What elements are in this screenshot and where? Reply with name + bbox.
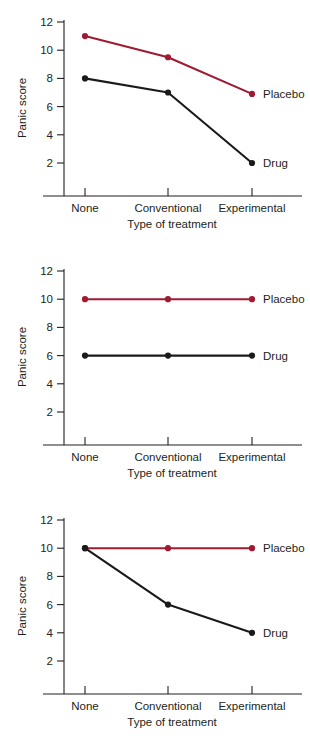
data-point-drug-0 xyxy=(82,545,88,551)
series-label-placebo: Placebo xyxy=(263,542,305,554)
series-line-placebo xyxy=(85,36,252,94)
series-group-3 xyxy=(82,545,255,636)
y-tick-label-8: 8 xyxy=(47,72,53,84)
x-axis-title-1: Type of treatment xyxy=(127,218,217,230)
y-axis-title-3: Panic score xyxy=(16,576,28,636)
chart-panel-stack: 24681012 NoneConventionalExperimental Pl… xyxy=(0,0,310,748)
y-tick-marks-2 xyxy=(57,271,64,412)
y-tick-label-2: 2 xyxy=(47,406,53,418)
y-tick-label-4: 4 xyxy=(47,627,54,639)
y-tick-label-12: 12 xyxy=(40,16,53,28)
x-tick-labels-3: NoneConventionalExperimental xyxy=(71,700,285,712)
series-label-placebo: Placebo xyxy=(263,293,305,305)
series-label-placebo: Placebo xyxy=(263,88,305,100)
y-tick-marks-1 xyxy=(57,22,64,163)
data-point-drug-1 xyxy=(165,89,171,95)
x-tick-labels-1: NoneConventionalExperimental xyxy=(71,202,285,214)
y-tick-label-4: 4 xyxy=(47,129,54,141)
chart-panel-2: 24681012 NoneConventionalExperimental Pl… xyxy=(0,249,310,498)
y-tick-label-12: 12 xyxy=(40,514,53,526)
y-axis-title-1: Panic score xyxy=(16,78,28,138)
y-tick-marks-3 xyxy=(57,520,64,661)
x-axis-title-3: Type of treatment xyxy=(127,716,217,728)
series-label-drug: Drug xyxy=(263,627,288,639)
y-tick-label-10: 10 xyxy=(40,542,53,554)
x-tick-label-none: None xyxy=(71,451,99,463)
x-tick-label-none: None xyxy=(71,700,99,712)
line-chart-3: 24681012 NoneConventionalExperimental Pl… xyxy=(0,498,310,747)
chart-panel-1: 24681012 NoneConventionalExperimental Pl… xyxy=(0,0,310,249)
y-tick-label-6: 6 xyxy=(47,101,53,113)
series-labels-3: PlaceboDrug xyxy=(263,542,305,639)
data-point-placebo-2 xyxy=(249,545,255,551)
series-line-drug xyxy=(85,548,252,633)
x-axis-title-2: Type of treatment xyxy=(127,467,217,479)
data-point-placebo-0 xyxy=(82,296,88,302)
data-point-drug-2 xyxy=(249,630,255,636)
data-point-placebo-1 xyxy=(165,296,171,302)
line-chart-2: 24681012 NoneConventionalExperimental Pl… xyxy=(0,249,310,498)
x-tick-marks-3 xyxy=(85,686,252,694)
x-tick-label-conventional: Conventional xyxy=(134,202,201,214)
series-group-1 xyxy=(82,33,255,166)
y-axis-title-2: Panic score xyxy=(16,327,28,387)
x-tick-marks-1 xyxy=(85,188,252,196)
x-tick-labels-2: NoneConventionalExperimental xyxy=(71,451,285,463)
x-tick-label-experimental: Experimental xyxy=(218,202,285,214)
y-tick-label-6: 6 xyxy=(47,599,53,611)
data-point-placebo-2 xyxy=(249,296,255,302)
line-chart-1: 24681012 NoneConventionalExperimental Pl… xyxy=(0,0,310,249)
y-tick-labels-2: 24681012 xyxy=(40,265,53,418)
y-tick-label-8: 8 xyxy=(47,570,53,582)
y-tick-label-6: 6 xyxy=(47,350,53,362)
x-tick-label-experimental: Experimental xyxy=(218,700,285,712)
y-tick-label-10: 10 xyxy=(40,44,53,56)
x-tick-label-experimental: Experimental xyxy=(218,451,285,463)
x-tick-label-conventional: Conventional xyxy=(134,700,201,712)
chart-panel-3: 24681012 NoneConventionalExperimental Pl… xyxy=(0,498,310,747)
y-tick-label-8: 8 xyxy=(47,321,53,333)
x-tick-label-conventional: Conventional xyxy=(134,451,201,463)
data-point-drug-0 xyxy=(82,353,88,359)
data-point-drug-0 xyxy=(82,75,88,81)
data-point-drug-1 xyxy=(165,602,171,608)
data-point-placebo-2 xyxy=(249,91,255,97)
data-point-drug-2 xyxy=(249,353,255,359)
x-tick-marks-2 xyxy=(85,437,252,445)
y-tick-labels-3: 24681012 xyxy=(40,514,53,667)
y-tick-label-4: 4 xyxy=(47,378,54,390)
data-point-placebo-0 xyxy=(82,33,88,39)
y-tick-labels-1: 24681012 xyxy=(40,16,53,169)
series-group-2 xyxy=(82,296,255,359)
data-point-placebo-1 xyxy=(165,54,171,60)
series-label-drug: Drug xyxy=(263,350,288,362)
data-point-placebo-1 xyxy=(165,545,171,551)
data-point-drug-1 xyxy=(165,353,171,359)
y-tick-label-2: 2 xyxy=(47,157,53,169)
x-tick-label-none: None xyxy=(71,202,99,214)
series-label-drug: Drug xyxy=(263,157,288,169)
data-point-drug-2 xyxy=(249,160,255,166)
series-labels-2: PlaceboDrug xyxy=(263,293,305,361)
y-tick-label-12: 12 xyxy=(40,265,53,277)
series-labels-1: PlaceboDrug xyxy=(263,88,305,169)
y-tick-label-10: 10 xyxy=(40,293,53,305)
y-tick-label-2: 2 xyxy=(47,655,53,667)
